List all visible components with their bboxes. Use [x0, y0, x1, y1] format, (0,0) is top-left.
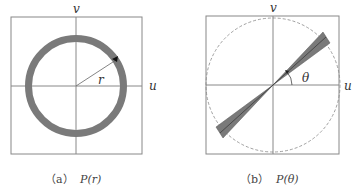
figure: r u v （a） P(r) θ u v （b） P(θ)	[0, 0, 353, 193]
u-axis-label: u	[149, 79, 157, 93]
caption-b-expr: P(θ)	[275, 173, 299, 186]
caption-a-tag: （a）	[45, 173, 74, 186]
v-axis-label: v	[270, 1, 277, 15]
v-axis-label: v	[73, 2, 80, 16]
panel-b: θ u v （b） P(θ)	[206, 1, 352, 186]
radius-line	[76, 60, 116, 86]
radius-label: r	[98, 73, 105, 87]
angle-label: θ	[302, 71, 310, 85]
caption-b-tag: （b）	[240, 173, 269, 186]
caption-a-expr: P(r)	[79, 173, 101, 186]
u-axis-label: u	[344, 79, 352, 93]
panel-a: r u v （a） P(r)	[11, 2, 157, 186]
